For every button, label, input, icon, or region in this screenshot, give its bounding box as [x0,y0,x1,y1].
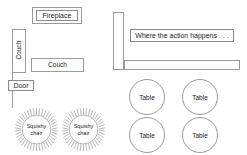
table-3: Table [129,117,165,153]
table-1-label: Table [139,94,155,101]
squishy-chair-1-label-line1: Squishy [27,123,47,130]
fireplace-label: Fireplace [43,12,72,19]
door-label-box: Door [8,80,34,91]
couch-vertical-label-text: Couch [15,41,22,60]
table-1: Table [129,79,165,115]
room-layout-diagram: Fireplace Couch Couch Door [0,0,247,155]
action-area-label: Where the action happens . . . [135,32,228,39]
couch-horizontal-label-text: Couch [48,61,67,68]
bar-counter-vertical [113,12,124,70]
squishy-chair-2-label-line1: Squishy [74,123,94,130]
table-2: Table [182,79,218,115]
fireplace-label-box: Fireplace [36,10,78,21]
squishy-chair-1-label: Squishy chair [14,107,59,152]
squishy-chair-2-label-line2: chair [78,130,90,137]
couch-horizontal-label: Couch [31,58,84,72]
table-3-label: Table [139,132,155,139]
table-4: Table [182,117,218,153]
bar-counter-horizontal [124,60,240,70]
squishy-chair-1-label-line2: chair [31,130,43,137]
action-area-label-box: Where the action happens . . . [130,29,234,42]
table-2-label: Table [192,94,208,101]
squishy-chair-2: Squishy chair [61,107,106,152]
table-4-label: Table [192,132,208,139]
couch-vertical-label: Couch [14,35,24,65]
squishy-chair-2-label: Squishy chair [61,107,106,152]
squishy-chair-1: Squishy chair [14,107,59,152]
door-label: Door [13,82,28,89]
